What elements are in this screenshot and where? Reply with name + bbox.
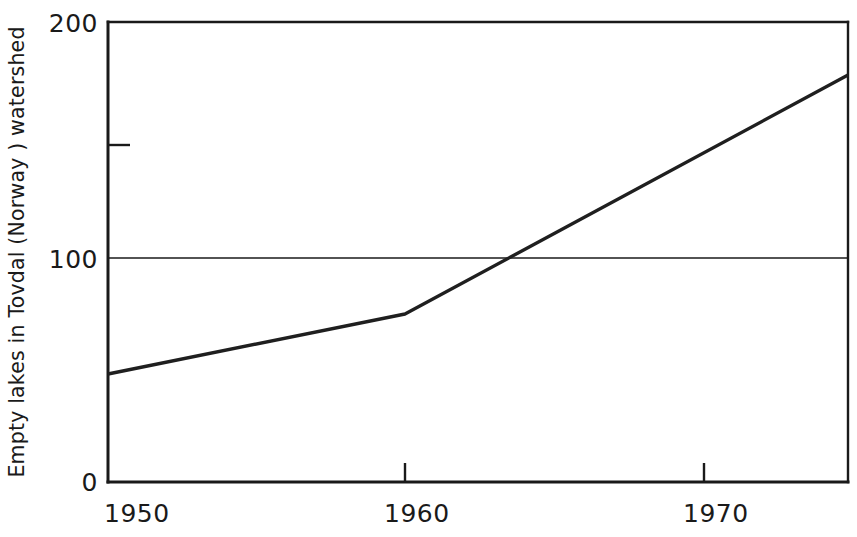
tick-label-y-200: 200 (49, 9, 98, 38)
tick-label-y-100: 100 (49, 245, 98, 274)
data-line-empty-lakes (108, 75, 848, 374)
tick-label-x-1960: 1960 (384, 499, 450, 528)
tick-label-x-1950: 1950 (104, 499, 170, 528)
tick-label-x-1970: 1970 (683, 499, 749, 528)
line-chart: 200 100 0 1950 1960 1970 Empty lakes in … (0, 0, 857, 537)
tick-label-y-0: 0 (82, 468, 98, 497)
chart-figure: 200 100 0 1950 1960 1970 Empty lakes in … (0, 0, 857, 537)
y-axis-title: Empty lakes in Tovdal (Norway ) watershe… (5, 26, 29, 477)
